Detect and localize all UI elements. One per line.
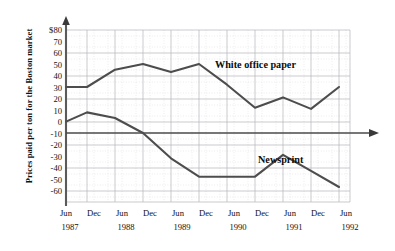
y-tick-label: -10 (51, 129, 62, 139)
y-tick-label: 60 (53, 48, 62, 58)
y-tick-label: 70 (53, 37, 62, 47)
series-line-newsprint (66, 112, 339, 187)
x-month-label: Jun (60, 208, 73, 218)
x-month-label: Jun (340, 208, 353, 218)
x-axis-month-labels: Jun Dec Jun Dec Jun Dec Jun Dec Jun Dec … (60, 208, 353, 218)
x-month-label: Jun (284, 208, 297, 218)
y-tick-label: -30 (51, 152, 62, 162)
y-tick-label: $80 (49, 25, 62, 35)
y-tick-label: -20 (51, 140, 62, 150)
y-axis-line (62, 16, 70, 206)
x-month-label: Dec (143, 208, 157, 218)
series-annotation-white-office-paper: White office paper (215, 59, 296, 70)
y-tick-label: 50 (53, 60, 62, 70)
y-tick-label: -60 (51, 186, 62, 196)
series-annotation-newsprint: Newsprint (258, 154, 304, 165)
series-line-white-office-paper (66, 64, 339, 109)
x-month-label: Dec (199, 208, 213, 218)
y-tick-label: 40 (53, 71, 62, 81)
x-month-label: Jun (228, 208, 241, 218)
chart-container: Prices paid per ton for the Boston marke… (0, 0, 395, 251)
y-tick-label: -50 (51, 175, 62, 185)
line-chart-plot: $80 70 60 50 40 30 20 10 0 -10 -20 -30 -… (0, 0, 395, 251)
x-month-label: Dec (87, 208, 101, 218)
x-year-label: 1991 (285, 222, 302, 232)
x-month-label: Jun (116, 208, 129, 218)
x-month-label: Dec (311, 208, 325, 218)
y-tick-label: -40 (51, 163, 62, 173)
x-month-label: Dec (255, 208, 269, 218)
y-tick-label: 20 (53, 94, 62, 104)
y-tick-label: 30 (53, 83, 62, 93)
x-month-label: Jun (172, 208, 185, 218)
y-tick-label: 10 (53, 106, 62, 116)
x-year-label: 1992 (341, 222, 358, 232)
x-year-label: 1990 (229, 222, 246, 232)
x-axis-year-labels: 1987 1988 1989 1990 1991 1992 (61, 222, 358, 232)
y-axis-tick-labels: $80 70 60 50 40 30 20 10 0 -10 -20 -30 -… (49, 25, 62, 196)
x-year-label: 1987 (61, 222, 79, 232)
y-tick-label: 0 (58, 117, 62, 127)
x-axis-line (66, 129, 379, 137)
x-year-label: 1989 (173, 222, 190, 232)
x-year-label: 1988 (117, 222, 134, 232)
